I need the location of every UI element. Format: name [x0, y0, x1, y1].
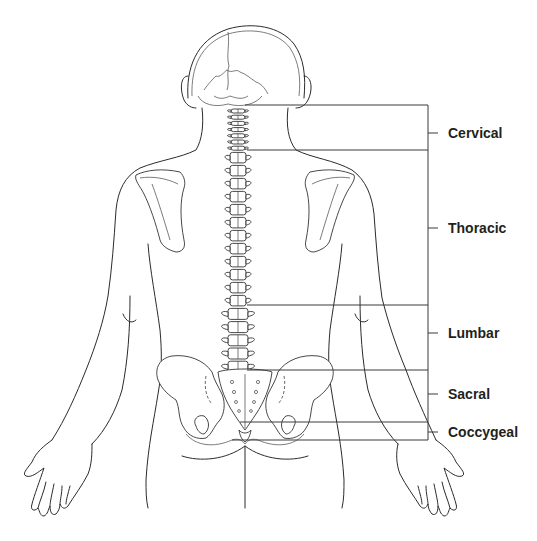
label-thoracic: Thoracic [448, 220, 506, 236]
spine-regions-diagram: Cervical Thoracic Lumbar Sacral Coccygea… [0, 0, 537, 541]
right-hand [397, 440, 464, 516]
label-coccygeal: Coccygeal [448, 424, 518, 440]
vertebral-column [222, 109, 255, 372]
anatomy-illustration [0, 0, 537, 541]
head [181, 26, 311, 108]
label-sacral: Sacral [448, 386, 490, 402]
label-cervical: Cervical [448, 125, 502, 141]
buttocks [182, 446, 308, 508]
right-scapula [305, 170, 354, 252]
left-hand [24, 440, 92, 516]
left-scapula [136, 170, 185, 252]
pelvis [157, 356, 333, 445]
label-lumbar: Lumbar [448, 325, 499, 341]
